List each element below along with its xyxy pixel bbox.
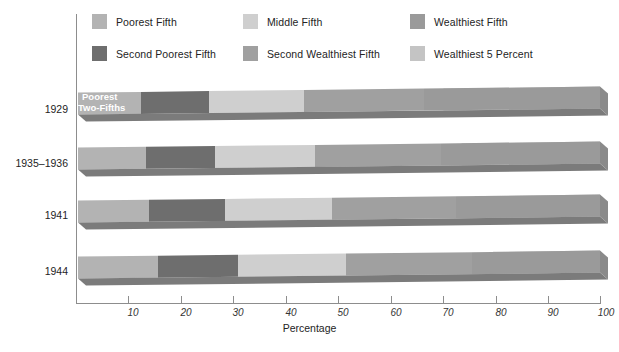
legend-item-second-poorest-fifth[interactable]: Second Poorest Fifth [92,46,216,61]
segment-1935-1936-second-poorest-fifth [146,146,215,169]
x-axis-tick-70 [443,296,444,304]
y-axis-label-1944: 1944 [0,265,68,277]
bar-1944-end-cap [600,251,608,280]
legend-swatch-second-wealthiest-fifth [243,46,258,61]
legend-swatch-second-poorest-fifth [92,46,107,61]
segment-1935-1936-middle-fifth [215,145,315,168]
annotation-poorest-two-fifths-line1: Poorest [82,91,118,102]
segment-1944-middle-fifth [238,254,346,277]
bar-1929[interactable]: Poorest Two-Fifths [78,87,608,122]
segment-1935-1936-wealthiest-fifth [441,142,600,166]
segment-1941-wealthiest-5-percent [475,195,600,218]
x-axis-title: Percentage [0,322,619,334]
segment-1935-1936-wealthiest-5-percent [462,142,600,166]
segment-1929-middle-fifth [209,90,304,113]
segment-1935-1936-second-wealthiest-fifth [315,143,441,167]
bar-1941-shadow-face [78,217,608,230]
segment-1941-second-poorest-fifth [149,199,225,222]
bar-1929-shadow-face [78,109,608,122]
x-axis-ticklabel-80: 80 [495,307,506,318]
x-axis-tick-40 [286,296,287,304]
legend-item-poorest-fifth[interactable]: Poorest Fifth [92,14,177,29]
segment-1935-1936-poorest-fifth [78,147,146,170]
x-axis-ticklabel-70: 70 [442,307,453,318]
legend-label-second-wealthiest-fifth: Second Wealthiest Fifth [267,48,380,60]
y-axis-label-1935-1936: 1935–1936 [0,157,68,169]
legend-item-second-wealthiest-fifth[interactable]: Second Wealthiest Fifth [243,46,380,61]
bar-1944[interactable] [78,251,608,286]
legend-label-wealthiest-5-percent: Wealthiest 5 Percent [434,48,533,60]
segment-1944-second-wealthiest-fifth [346,252,472,275]
segment-1944-wealthiest-fifth [472,251,600,275]
segment-1929-poorest-fifth [78,92,141,115]
segment-1941-middle-fifth [225,198,332,221]
x-axis-tick-80 [496,296,497,304]
x-axis-ticklabel-20: 20 [180,307,191,318]
legend-label-poorest-fifth: Poorest Fifth [116,16,177,28]
bar-1944-shadow-face [78,273,608,286]
x-axis-tick-90 [548,296,549,304]
bar-1935-1936-shadow-face [78,164,608,177]
annotation-poorest-two-fifths-line2: Two-Fifths [78,102,125,113]
x-axis-ticklabel-50: 50 [337,307,348,318]
x-axis-ticklabel-30: 30 [232,307,243,318]
x-axis-ticklabel-100: 100 [598,307,615,318]
x-axis-tick-20 [181,296,182,304]
segment-1944-poorest-fifth [78,256,158,279]
y-axis-label-1929: 1929 [0,103,68,115]
x-axis-tick-100-end [600,296,601,304]
x-axis-tick-50 [338,296,339,304]
legend-row-top: Poorest Fifth Middle Fifth Wealthiest Fi… [80,14,600,34]
x-axis-ticklabel-10: 10 [127,307,138,318]
legend-item-middle-fifth[interactable]: Middle Fifth [243,14,322,29]
legend-swatch-middle-fifth [243,14,258,29]
legend-label-middle-fifth: Middle Fifth [267,16,322,28]
legend-label-wealthiest-fifth: Wealthiest Fifth [434,16,508,28]
bar-1941[interactable] [78,195,608,230]
chart-legend: Poorest Fifth Middle Fifth Wealthiest Fi… [80,14,600,72]
segment-1944-wealthiest-5-percent [493,251,600,274]
legend-item-wealthiest-fifth[interactable]: Wealthiest Fifth [410,14,508,29]
bar-1941-end-cap [600,195,608,224]
segment-1929-wealthiest-fifth [424,87,600,111]
y-axis-label-1941: 1941 [0,209,68,221]
segment-1929-second-poorest-fifth [141,91,209,114]
segment-1944-second-poorest-fifth [158,255,238,278]
bar-1935-1936-end-cap [600,142,608,171]
segment-1941-second-wealthiest-fifth [332,196,456,219]
x-axis-ticklabel-60: 60 [390,307,401,318]
x-axis-ticklabel-40: 40 [285,307,296,318]
x-axis-ticklabel-90: 90 [547,307,558,318]
x-axis-tick-30 [233,296,234,304]
segment-1929-second-wealthiest-fifth [304,89,424,112]
chart-container: Poorest Fifth Middle Fifth Wealthiest Fi… [0,0,619,352]
x-axis-tick-10 [128,296,129,304]
y-axis-line [76,14,77,304]
segment-1929-wealthiest-5-percent [443,87,600,111]
legend-swatch-wealthiest-5-percent [410,46,425,61]
legend-swatch-wealthiest-fifth [410,14,425,29]
bar-1935-1936[interactable] [78,142,608,177]
legend-label-second-poorest-fifth: Second Poorest Fifth [116,48,216,60]
legend-item-wealthiest-5-percent[interactable]: Wealthiest 5 Percent [410,46,533,61]
x-axis-tick-60 [391,296,392,304]
segment-1941-wealthiest-fifth [456,195,600,219]
legend-swatch-poorest-fifth [92,14,107,29]
bar-1929-end-cap [600,87,608,116]
segment-1941-poorest-fifth [78,200,149,223]
legend-row-bottom: Second Poorest Fifth Second Wealthiest F… [80,46,600,66]
